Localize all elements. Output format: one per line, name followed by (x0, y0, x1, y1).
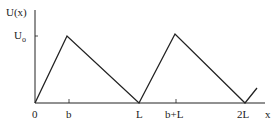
x-tick-label-b: b (66, 108, 72, 120)
x-tick-label-0: 0 (32, 108, 38, 120)
x-tick-label-2l: 2L (237, 108, 250, 120)
potential-curve (35, 34, 257, 103)
x-axis-label: x (265, 108, 271, 120)
sawtooth-potential-diagram: U(x) x Uo 0 b L b+L 2L (0, 0, 278, 125)
y-axis-label: U(x) (6, 6, 27, 19)
y-tick-label-u0: Uo (14, 29, 26, 44)
x-tick-label-l: L (136, 108, 143, 120)
x-tick-label-b-plus-l: b+L (165, 108, 184, 120)
